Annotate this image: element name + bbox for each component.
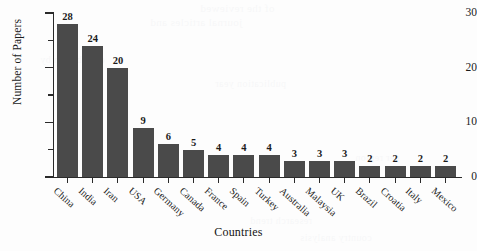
x-axis-tick — [243, 178, 244, 183]
x-axis-tick — [344, 178, 345, 183]
bar — [233, 155, 254, 177]
bar — [410, 166, 431, 177]
y-axis-tick-major — [45, 67, 54, 68]
x-axis-category-label: Spain — [228, 185, 253, 209]
x-axis-tick — [218, 178, 219, 183]
bar-value-label: 3 — [306, 148, 334, 159]
bar — [183, 150, 204, 177]
x-axis-category-label: China — [51, 185, 76, 209]
x-axis-category-label: Croatia — [379, 185, 409, 213]
bar-value-label: 3 — [331, 148, 359, 159]
bleed-text-line: journal articles and — [150, 16, 242, 28]
bar — [82, 46, 103, 177]
x-axis-category-label: UK — [328, 185, 346, 203]
x-axis-tick — [143, 178, 144, 183]
x-axis-category-label: Turkey — [253, 185, 282, 213]
y-axis-tick-label: 20 — [435, 61, 477, 73]
x-axis-category-label: Iran — [102, 185, 122, 204]
bar — [158, 144, 179, 177]
x-axis-tick — [117, 178, 118, 183]
bar-value-label: 28 — [54, 11, 82, 22]
bar — [133, 128, 154, 177]
bar-value-label: 20 — [104, 55, 132, 66]
x-axis-category-label: India — [76, 185, 99, 207]
bar-value-label: 2 — [356, 153, 384, 164]
bar-value-label: 5 — [180, 137, 208, 148]
y-axis-tick-major — [45, 122, 54, 123]
y-axis-title: Number of Papers — [11, 0, 23, 127]
x-axis-category-label: France — [202, 185, 230, 212]
bar-value-label: 4 — [205, 142, 233, 153]
bar — [385, 166, 406, 177]
y-axis-tick-minor — [48, 149, 54, 150]
x-axis-category-label: USA — [127, 185, 149, 207]
bar — [309, 161, 330, 177]
x-axis-line — [53, 177, 462, 178]
bar-value-label: 6 — [154, 131, 182, 142]
bar-value-label: 4 — [255, 142, 283, 153]
bar — [334, 161, 355, 177]
x-axis-tick — [369, 178, 370, 183]
y-axis-tick-minor — [48, 94, 54, 95]
x-axis-tick — [67, 178, 68, 183]
x-axis-tick — [269, 178, 270, 183]
x-axis-category-label: Brazil — [354, 185, 380, 210]
x-axis-tick — [193, 178, 194, 183]
x-axis-tick — [168, 178, 169, 183]
bar-value-label: 24 — [79, 33, 107, 44]
x-axis-tick — [395, 178, 396, 183]
x-axis-tick — [420, 178, 421, 183]
x-axis-category-label: Italy — [404, 185, 425, 206]
bar-value-label: 2 — [406, 153, 434, 164]
x-axis-tick — [92, 178, 93, 183]
bar — [435, 166, 456, 177]
bar-value-label: 2 — [381, 153, 409, 164]
y-axis-tick-label: 10 — [435, 115, 477, 127]
bar — [284, 161, 305, 177]
x-axis-tick — [319, 178, 320, 183]
bar-value-label: 4 — [230, 142, 258, 153]
x-axis-title: Countries — [0, 225, 477, 240]
bar — [57, 24, 78, 177]
bleed-text-line: of the reviewed — [200, 2, 274, 14]
y-axis-tick-minor — [48, 40, 54, 41]
x-axis-tick — [294, 178, 295, 183]
bar-value-label: 2 — [432, 153, 460, 164]
bar — [107, 68, 128, 177]
bar-chart-figure: of the reviewed journal articles and dis… — [0, 0, 477, 251]
bar — [208, 155, 229, 177]
bar — [359, 166, 380, 177]
x-axis-category-label: Mexico — [429, 185, 460, 214]
bleed-text-line: publication year — [215, 78, 286, 89]
y-axis-tick-label: 30 — [435, 6, 477, 18]
bar — [259, 155, 280, 177]
x-axis-tick — [445, 178, 446, 183]
bar-value-label: 3 — [280, 148, 308, 159]
bar-value-label: 9 — [129, 115, 157, 126]
